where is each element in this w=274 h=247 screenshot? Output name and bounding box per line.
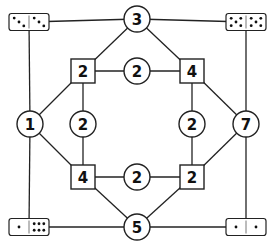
pip-icon (33, 222, 36, 225)
circle-node-inner-left: 2 (70, 111, 96, 137)
square-label: 4 (78, 169, 88, 187)
pip-icon (239, 17, 242, 20)
pip-icon (13, 17, 16, 20)
circle-node-inner-top: 2 (124, 58, 150, 84)
circle-label: 2 (132, 63, 142, 81)
pip-icon (33, 229, 36, 232)
pip-icon (42, 25, 45, 28)
pip-icon (22, 25, 25, 28)
pip-icon (33, 17, 36, 20)
domino-top-left (9, 14, 49, 31)
pip-icon (38, 229, 41, 232)
pip-icon (42, 229, 45, 232)
circle-node-top: 3 (124, 6, 150, 32)
circle-label: 2 (187, 116, 197, 134)
circle-node-inner-bottom: 2 (124, 164, 150, 190)
pip-icon (250, 17, 253, 20)
connector-lines (29, 19, 246, 227)
square-label: 2 (78, 63, 88, 81)
pip-icon (259, 24, 262, 27)
pip-icon (38, 21, 41, 24)
domino-puzzle-diagram: 2442 35172222 (0, 0, 274, 247)
circle-node-bottom: 5 (124, 214, 150, 240)
square-label: 4 (187, 63, 197, 81)
pip-icon (42, 222, 45, 225)
square-node-sq-bottom-right: 2 (180, 165, 204, 189)
domino-bottom-left (9, 219, 49, 236)
diagram-svg: 2442 35172222 (0, 0, 274, 247)
pip-icon (38, 222, 41, 225)
circle-node-inner-right: 2 (179, 111, 205, 137)
pip-icon (18, 21, 21, 24)
circle-node-right: 7 (233, 111, 259, 137)
circle-label: 2 (132, 169, 142, 187)
square-node-sq-bottom-left: 4 (71, 165, 95, 189)
pip-icon (235, 21, 238, 24)
pip-icon (239, 24, 242, 27)
domino-top-right (226, 14, 266, 31)
circle-label: 5 (132, 219, 142, 237)
square-node-sq-top-right: 4 (180, 59, 204, 83)
pip-icon (250, 24, 253, 27)
pip-icon (255, 21, 258, 24)
pip-icon (259, 17, 262, 20)
circle-label: 2 (78, 116, 88, 134)
circle-label: 1 (25, 116, 35, 134)
pip-icon (235, 226, 238, 229)
circle-label: 3 (132, 11, 142, 29)
pip-icon (18, 226, 21, 229)
square-label: 2 (187, 169, 197, 187)
circle-label: 7 (241, 116, 251, 134)
pip-icon (230, 24, 233, 27)
pip-icon (255, 226, 258, 229)
circle-node-left: 1 (17, 111, 43, 137)
square-node-sq-top-left: 2 (71, 59, 95, 83)
domino-bottom-right (226, 219, 266, 236)
pip-icon (230, 17, 233, 20)
